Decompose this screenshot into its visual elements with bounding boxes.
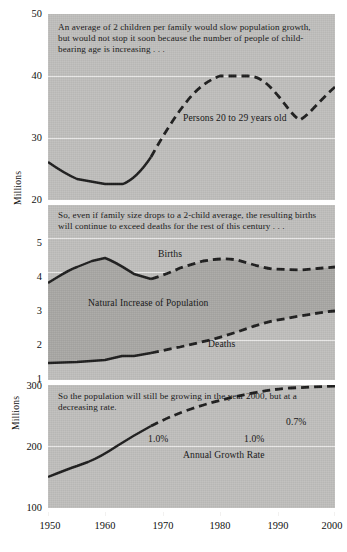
xtick-1990: 1990 — [255, 520, 301, 531]
growth-rate-pct-label-1: 1.0% — [148, 433, 168, 444]
panel1-annotation-line3: bearing age is increasing . . . — [58, 44, 329, 55]
deaths-series-label: Deaths — [208, 338, 235, 349]
xtick-1970: 1970 — [140, 520, 186, 531]
growth-rate-solid-line — [48, 426, 151, 477]
ytick-p1-30: 30 — [10, 133, 42, 143]
y-axis-label-upper: Millions — [12, 171, 23, 205]
xtickmark-1980 — [220, 512, 221, 516]
panel2-annotation-line1: So, even if family size drops to a 2-chi… — [58, 210, 329, 221]
panel2-annotation-line2: will continue to exceed deaths for the r… — [58, 221, 329, 232]
natural-increase-band-label: Natural Increase of Population — [88, 297, 208, 308]
xtick-2000: 2000 — [309, 520, 347, 531]
ytick-p1-40: 40 — [10, 71, 42, 81]
xtickmark-1990 — [278, 512, 279, 516]
panel-persons-20-to-29: An average of 2 children per family woul… — [48, 14, 335, 200]
xtickmark-1970 — [163, 512, 164, 516]
births-series-label: Births — [158, 248, 182, 259]
xtickmark-1960 — [105, 512, 106, 516]
persons-20-29-series-label: Persons 20 to 29 years old — [183, 112, 287, 123]
panel-annual-growth-rate: So the population will still be growing … — [48, 385, 335, 508]
xtickmark-1950 — [48, 512, 49, 516]
xtick-1950: 1950 — [27, 520, 73, 531]
growth-rate-pct-label-2: 1.0% — [244, 433, 264, 444]
panel2-annotation: So, even if family size drops to a 2-chi… — [58, 210, 329, 232]
ytick-p2-2: 2 — [10, 340, 42, 350]
ytick-p2-3: 3 — [10, 306, 42, 316]
xtick-1980: 1980 — [197, 520, 243, 531]
ytick-p1-50: 50 — [10, 9, 42, 19]
panel1-plot-area: An average of 2 children per family woul… — [48, 14, 335, 200]
panel-births-deaths: So, even if family size drops to a 2-chi… — [48, 205, 335, 380]
panel1-annotation-line2: but would not stop it soon because the n… — [58, 33, 329, 44]
ytick-p3-100: 100 — [10, 503, 42, 513]
x-axis: 1950 1960 1970 1980 1990 2000 — [48, 512, 335, 528]
ytick-p3-200: 200 — [10, 442, 42, 452]
panel2-plot-area: So, even if family size drops to a 2-chi… — [48, 205, 335, 380]
ytick-p2-5: 5 — [10, 238, 42, 248]
panel3-annotation-line1: So the population will still be growing … — [58, 391, 329, 402]
natural-increase-band — [48, 258, 335, 363]
ytick-p2-4: 4 — [10, 272, 42, 282]
xtick-1960: 1960 — [82, 520, 128, 531]
ytick-p3-300: 300 — [10, 381, 42, 391]
panel1-annotation-line1: An average of 2 children per family woul… — [58, 22, 329, 33]
annual-growth-rate-label: Annual Growth Rate — [183, 449, 265, 460]
ytick-p2-1: 1 — [10, 374, 42, 384]
y-axis-label-lower: Millions — [10, 396, 21, 430]
persons-20-29-solid-line — [48, 157, 151, 184]
panel3-annotation-line2: decreasing rate. — [58, 402, 329, 413]
panel1-annotation: An average of 2 children per family woul… — [58, 22, 329, 56]
panel3-annotation: So the population will still be growing … — [58, 391, 329, 413]
xtickmark-2000 — [334, 512, 335, 516]
panel3-plot-area: So the population will still be growing … — [48, 385, 335, 508]
y-axis-tick-column: 50 40 30 20 5 4 3 2 1 300 200 100 — [0, 0, 42, 552]
growth-rate-pct-label-3: 0.7% — [286, 416, 306, 427]
